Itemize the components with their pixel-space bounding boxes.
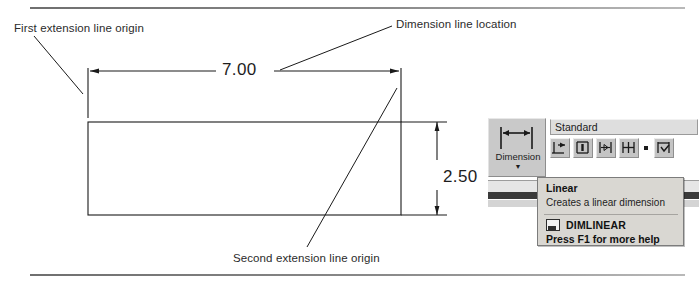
baseline-dimension-icon (620, 139, 638, 157)
dimaligned-tool-button[interactable] (573, 138, 593, 158)
tooltip-description: Creates a linear dimension (546, 197, 665, 208)
command-icon (546, 219, 560, 231)
part-outline (88, 122, 401, 215)
tooltip-help-text: Press F1 for more help (546, 233, 660, 245)
leader-first-extension (34, 36, 83, 94)
dimension-split-button[interactable]: Dimension ▼ (488, 118, 546, 177)
aligned-dimension-icon (574, 139, 592, 157)
dimension-split-button-label: Dimension (489, 151, 547, 162)
callout-second-extension-line-origin: Second extension line origin (233, 252, 380, 264)
callout-dimension-line-location: Dimension line location (396, 18, 517, 30)
linear-dimension-icon (494, 123, 540, 151)
tooltip-title: Linear (546, 182, 578, 194)
tooltip-command-name: DIMLINEAR (566, 219, 626, 231)
command-tooltip: Linear Creates a linear dimension DIMLIN… (537, 177, 684, 246)
screenshot-canvas: First extension line origin Dimension li… (0, 0, 699, 287)
horizontal-dimension-value: 7.00 (222, 60, 257, 80)
dimlinear-tool-button[interactable] (550, 138, 570, 158)
dimangular-tool-button[interactable] (596, 138, 616, 158)
dimbreak-tool-button[interactable] (654, 138, 674, 158)
callout-first-extension-line-origin: First extension line origin (14, 22, 144, 34)
linear-dimension-icon (551, 139, 569, 157)
dimension-style-combo[interactable]: Standard (550, 119, 698, 135)
dimension-break-icon (655, 139, 673, 157)
leader-dimension-location (280, 26, 392, 70)
dimbaseline-tool-button[interactable] (619, 138, 639, 158)
angular-dimension-icon (597, 139, 615, 157)
tooltip-divider (544, 214, 678, 215)
vertical-dimension-line (401, 122, 447, 215)
tool-separator-dot (642, 138, 651, 158)
vertical-dimension-value: 2.50 (443, 167, 478, 187)
dimension-tool-strip (550, 138, 699, 159)
chevron-down-icon[interactable]: ▼ (489, 163, 547, 170)
dimension-style-value: Standard (555, 121, 598, 133)
